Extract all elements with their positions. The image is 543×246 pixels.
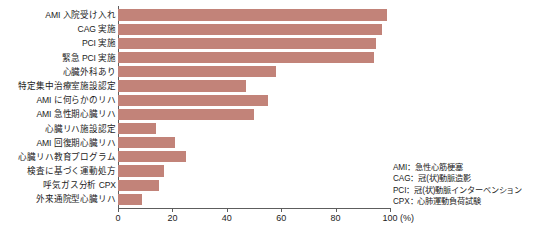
bar xyxy=(118,109,254,120)
x-axis-tick xyxy=(336,208,337,212)
category-label: 心臓リハ施設認定 xyxy=(4,122,116,136)
bar xyxy=(118,165,164,176)
category-label: AMI に何らかのリハ xyxy=(4,93,116,107)
category-label: 緊急 PCI 実施 xyxy=(4,51,116,65)
x-axis-tick-label: 20 xyxy=(167,213,177,223)
bar xyxy=(118,66,276,77)
bar xyxy=(118,137,175,148)
x-axis-tick xyxy=(390,208,391,212)
category-label: 呼気ガス分析 CPX xyxy=(4,178,116,192)
bar-row xyxy=(118,107,390,121)
category-label: 検査に基づく運動処方 xyxy=(4,164,116,178)
category-label: AMI 入院受け入れ xyxy=(4,8,116,22)
x-axis-unit-label: (%) xyxy=(400,213,414,223)
x-axis-tick-label: 80 xyxy=(331,213,341,223)
bar-row xyxy=(118,8,390,22)
bar xyxy=(118,151,186,162)
category-label: 心臓リハ教育プログラム xyxy=(4,150,116,164)
bar-row xyxy=(118,136,390,150)
bar xyxy=(118,95,268,106)
category-label: 外来通院型心臓リハ xyxy=(4,192,116,206)
x-axis-tick xyxy=(281,208,282,212)
category-label: CAG 実施 xyxy=(4,22,116,36)
bar xyxy=(118,9,387,20)
bar-row xyxy=(118,178,390,192)
bar-row xyxy=(118,192,390,206)
bar-row xyxy=(118,36,390,50)
bar-chart: AMI 入院受け入れCAG 実施PCI 実施緊急 PCI 実施心臓外科あり特定集… xyxy=(0,0,543,246)
category-label: AMI 回復期心臓リハ xyxy=(4,136,116,150)
x-axis-tick xyxy=(118,208,119,212)
category-label: PCI 実施 xyxy=(4,36,116,50)
bar-row xyxy=(118,93,390,107)
x-axis-tick xyxy=(227,208,228,212)
bar-row xyxy=(118,122,390,136)
bar-row xyxy=(118,150,390,164)
bar-row xyxy=(118,51,390,65)
bar-row xyxy=(118,22,390,36)
category-label-column: AMI 入院受け入れCAG 実施PCI 実施緊急 PCI 実施心臓外科あり特定集… xyxy=(4,8,116,207)
legend-line: CAG：冠(状)動脈造影 xyxy=(393,173,541,184)
bar xyxy=(118,80,246,91)
x-axis-tick-label: 40 xyxy=(222,213,232,223)
x-axis-tick xyxy=(172,208,173,212)
bar xyxy=(118,194,142,205)
bar xyxy=(118,123,156,134)
bar-row xyxy=(118,65,390,79)
plot-area xyxy=(118,8,390,207)
x-axis-line xyxy=(118,208,390,209)
bar-row xyxy=(118,164,390,178)
legend-line: PCI：冠(状)動脈インターベンション xyxy=(393,185,541,196)
category-label: AMI 急性期心臓リハ xyxy=(4,107,116,121)
bar xyxy=(118,38,376,49)
legend-line: CPX：心肺運動負荷試験 xyxy=(393,196,541,207)
bar xyxy=(118,180,159,191)
legend-line: AMI：急性心筋梗塞 xyxy=(393,162,541,173)
x-axis-tick-label: 0 xyxy=(115,213,120,223)
abbreviation-legend: AMI：急性心筋梗塞CAG：冠(状)動脈造影PCI：冠(状)動脈インターベンショ… xyxy=(393,162,541,208)
x-axis-tick-label: 60 xyxy=(276,213,286,223)
x-axis-tick-label: 100 xyxy=(382,213,397,223)
bar xyxy=(118,52,374,63)
bar-row xyxy=(118,79,390,93)
category-label: 特定集中治療室施設認定 xyxy=(4,79,116,93)
category-label: 心臓外科あり xyxy=(4,65,116,79)
bar xyxy=(118,24,382,35)
